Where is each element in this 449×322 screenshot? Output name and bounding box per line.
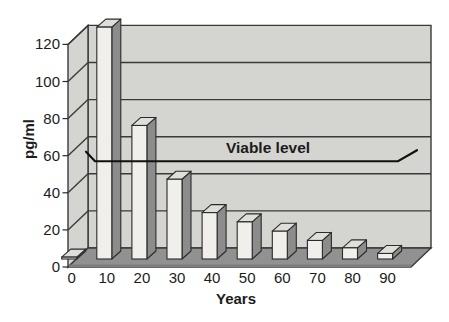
x-tick-label: 70 <box>309 269 326 286</box>
y-tick-label: 0 <box>52 258 60 275</box>
y-tick-label: 20 <box>43 221 60 238</box>
bar-front-face <box>378 253 393 259</box>
y-tick-label: 40 <box>43 184 60 201</box>
bar-front-face <box>62 257 77 259</box>
bar-front-face <box>272 231 287 259</box>
bar-side-face <box>147 117 156 259</box>
bar-chart-3d: 020406080100120pg/mlViable level01020304… <box>0 0 449 322</box>
x-tick-label: 90 <box>379 269 396 286</box>
bar <box>97 19 121 259</box>
chart-figure: 020406080100120pg/mlViable level01020304… <box>0 0 449 322</box>
x-tick-label: 0 <box>68 269 76 286</box>
bar-side-face <box>182 171 191 259</box>
bar <box>132 117 156 259</box>
bar-side-face <box>217 205 226 259</box>
y-tick-label: 120 <box>35 35 60 52</box>
viable-level-label: Viable level <box>226 139 310 156</box>
x-tick-label: 40 <box>204 269 221 286</box>
x-tick-label: 50 <box>239 269 256 286</box>
bar-front-face <box>237 222 252 259</box>
x-tick-label: 80 <box>344 269 361 286</box>
bar-front-face <box>307 240 322 259</box>
floor-front-edge <box>69 265 411 268</box>
x-tick-label: 20 <box>134 269 151 286</box>
bar <box>202 205 226 259</box>
x-axis-title: Years <box>216 290 256 307</box>
y-axis-title: pg/ml <box>20 119 37 159</box>
bar-front-face <box>202 213 217 259</box>
bar-front-face <box>343 248 358 259</box>
bar-front-face <box>97 27 112 259</box>
bar <box>237 214 261 259</box>
x-tick-label: 60 <box>274 269 291 286</box>
y-tick-label: 80 <box>43 110 60 127</box>
bar-front-face <box>167 179 182 259</box>
x-tick-label: 30 <box>169 269 186 286</box>
bar <box>272 223 296 259</box>
bar-side-face <box>112 19 121 259</box>
y-tick-label: 100 <box>35 73 60 90</box>
bar <box>167 171 191 259</box>
x-tick-label: 10 <box>98 269 115 286</box>
y-tick-label: 60 <box>43 147 60 164</box>
bar-front-face <box>132 125 147 259</box>
